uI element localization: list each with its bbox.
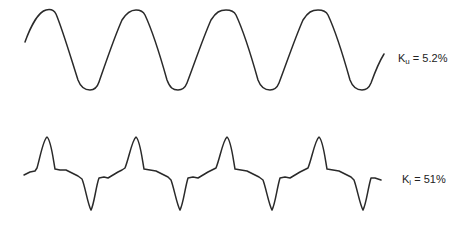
voltage-label-equals: = <box>410 52 423 64</box>
current-label-equals: = <box>411 173 424 185</box>
current-waveform <box>24 137 381 210</box>
voltage-label-value: 5.2% <box>422 52 447 64</box>
current-label-value: 51% <box>424 173 446 185</box>
voltage-waveform <box>25 10 384 90</box>
current-distortion-label: Ki = 51% <box>402 174 446 187</box>
voltage-distortion-label: Ku = 5.2% <box>398 53 447 66</box>
waveform-figure <box>0 0 464 243</box>
